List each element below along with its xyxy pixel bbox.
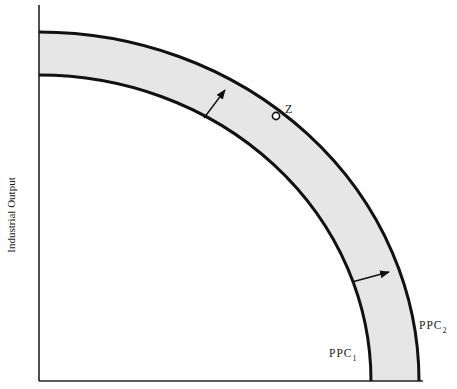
ppc2-label-sub: 2 bbox=[442, 326, 447, 335]
point-z-label: Z bbox=[285, 102, 292, 116]
ppc2-label: PPC2 bbox=[419, 319, 447, 335]
shift-band bbox=[39, 32, 419, 381]
ppc2-label-main: PPC bbox=[419, 319, 442, 331]
ppc-diagram: Z PPC1 PPC2 Industrial Output bbox=[0, 0, 457, 389]
ppc1-label-sub: 1 bbox=[352, 354, 357, 363]
point-z-marker bbox=[272, 112, 279, 119]
y-axis-label: Industrial Output bbox=[5, 177, 17, 252]
ppc1-curve bbox=[39, 75, 371, 381]
ppc1-label-main: PPC bbox=[329, 347, 352, 359]
ppc1-label: PPC1 bbox=[329, 347, 357, 363]
